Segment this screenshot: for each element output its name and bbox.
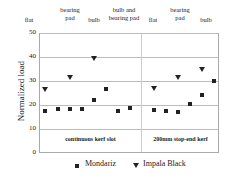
legend-label-impala: Impala Black: [143, 159, 186, 168]
y-tick-50: 50: [22, 28, 36, 36]
y-axis-label: Normalized load: [16, 56, 26, 126]
impala-legend-icon: [133, 163, 139, 168]
mondariz-marker: [68, 107, 72, 111]
mondariz-legend-icon: [75, 164, 79, 168]
y-tick-0: 0: [22, 148, 36, 156]
mondariz-marker: [43, 109, 47, 113]
impala-marker: [151, 86, 157, 91]
group-divider: [141, 33, 142, 152]
mondariz-marker: [176, 110, 180, 114]
gridline-50: [40, 33, 218, 34]
impala-marker: [67, 75, 73, 80]
group-label-stop-end: 200mm stop-end kerf: [141, 136, 220, 142]
impala-marker: [91, 56, 97, 61]
mondariz-marker: [80, 107, 84, 111]
category-label-flat-1: flat: [14, 16, 44, 24]
category-label-bearing-pad-2: bearing pad: [164, 6, 196, 22]
mondariz-marker: [92, 98, 96, 102]
gridline-40: [40, 57, 218, 58]
mondariz-marker: [128, 106, 132, 110]
y-tick-20: 20: [22, 100, 36, 108]
y-tick-40: 40: [22, 52, 36, 60]
mondariz-marker: [116, 109, 120, 113]
category-label-bulb-1: bulb: [82, 16, 106, 24]
y-tick-30: 30: [22, 76, 36, 84]
mondariz-marker: [164, 109, 168, 113]
mondariz-marker: [104, 87, 108, 91]
impala-marker: [199, 67, 205, 72]
mondariz-marker: [152, 108, 156, 112]
mondariz-marker: [200, 93, 204, 97]
mondariz-marker: [56, 107, 60, 111]
legend-label-mondariz: Mondariz: [85, 159, 116, 168]
category-label-bulb-and-bearing-pad: bulb and bearing pad: [104, 6, 144, 22]
gridline-30: [40, 81, 218, 82]
impala-marker: [42, 87, 48, 92]
mondariz-marker: [188, 102, 192, 106]
category-label-flat-2: flat: [143, 16, 163, 24]
plot-area: continuous kerf slot 200mm stop-end kerf: [39, 33, 219, 153]
group-label-continuous: continuous kerf slot: [40, 136, 141, 142]
y-tick-10: 10: [22, 124, 36, 132]
impala-marker: [175, 75, 181, 80]
gridline-10: [40, 129, 218, 130]
mondariz-marker: [212, 79, 216, 83]
category-label-bulb-2: bulb: [194, 16, 218, 24]
